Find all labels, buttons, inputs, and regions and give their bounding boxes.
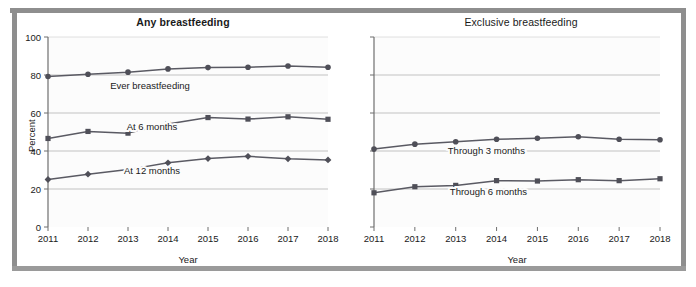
chart-panel-exclusive-breastfeeding: Exclusive breastfeeding Year 20112012201… [360, 10, 682, 268]
chart-title-right: Exclusive breastfeeding [360, 16, 682, 28]
chart-title-left: Any breastfeeding [18, 16, 348, 28]
series-label: Through 3 months [448, 145, 525, 156]
series-marker [535, 135, 541, 141]
series-marker [494, 178, 499, 183]
series-label: Ever breastfeeding [110, 80, 190, 91]
x-axis-label-right: Year [374, 254, 660, 265]
series-marker [85, 71, 91, 77]
y-axis-label-left: Percent [26, 119, 37, 152]
series-marker [494, 136, 500, 142]
series-marker [205, 65, 211, 71]
x-tick-label: 2016 [237, 233, 258, 244]
series-marker [165, 66, 171, 72]
series-marker [325, 64, 331, 70]
series-marker [576, 177, 581, 182]
chart-svg-right: 20112012201320142015201620172018Through … [360, 10, 682, 268]
series-marker [371, 146, 377, 152]
series-marker [657, 137, 663, 143]
series-marker [325, 117, 330, 122]
series-marker [45, 74, 51, 80]
x-tick-label: 2018 [649, 233, 670, 244]
x-tick-label: 2011 [38, 233, 58, 244]
x-tick-label: 2015 [197, 233, 218, 244]
series-marker [535, 178, 540, 183]
series-marker [285, 114, 290, 119]
x-tick-label: 2014 [486, 233, 507, 244]
y-tick-label: 60 [30, 108, 41, 119]
series-marker [205, 115, 210, 120]
series-marker [285, 63, 291, 69]
series-label: At 6 months [127, 121, 178, 132]
figure-container: Any breastfeeding Percent Year 020406080… [0, 0, 696, 287]
x-tick-label: 2013 [117, 233, 138, 244]
frame-border-left [12, 13, 17, 271]
x-tick-label: 2017 [277, 233, 298, 244]
x-tick-label: 2012 [404, 233, 425, 244]
x-tick-label: 2014 [157, 233, 178, 244]
plot-area-background [374, 37, 660, 227]
series-marker [371, 190, 376, 195]
x-axis-label-left: Year [48, 254, 328, 265]
chart-svg-left: 0204060801002011201220132014201520162017… [18, 10, 348, 268]
series-marker [412, 141, 418, 147]
x-tick-label: 2017 [609, 233, 630, 244]
y-tick-label: 100 [25, 32, 41, 43]
series-label: At 12 months [124, 165, 180, 176]
series-label: Through 6 months [450, 186, 527, 197]
series-marker [657, 176, 662, 181]
series-marker [575, 134, 581, 140]
chart-panel-any-breastfeeding: Any breastfeeding Percent Year 020406080… [18, 10, 348, 268]
x-tick-label: 2016 [568, 233, 589, 244]
y-tick-label: 0 [36, 222, 41, 233]
x-tick-label: 2015 [527, 233, 548, 244]
y-tick-label: 20 [30, 184, 41, 195]
series-marker [85, 129, 90, 134]
series-marker [45, 136, 50, 141]
series-marker [245, 116, 250, 121]
series-marker [412, 184, 417, 189]
series-marker [617, 178, 622, 183]
series-marker [125, 69, 131, 75]
x-tick-label: 2011 [364, 233, 384, 244]
y-tick-label: 80 [30, 70, 41, 81]
x-tick-label: 2012 [77, 233, 98, 244]
series-marker [245, 64, 251, 70]
x-tick-label: 2013 [445, 233, 466, 244]
series-marker [453, 139, 459, 145]
series-marker [616, 136, 622, 142]
x-tick-label: 2018 [317, 233, 338, 244]
